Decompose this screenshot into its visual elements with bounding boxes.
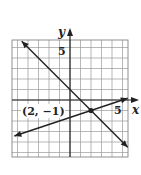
y-tick-5: 5 xyxy=(58,45,66,58)
x-axis-label: x xyxy=(131,103,140,117)
point-label: (2, −1) xyxy=(22,105,65,118)
intersection-point xyxy=(88,108,93,113)
x-tick-5: 5 xyxy=(114,104,122,117)
coordinate-plane: y x 5 5 (2, −1) xyxy=(0,0,141,175)
y-axis-label: y xyxy=(57,25,66,39)
y-axis-arrow-icon xyxy=(67,28,73,36)
